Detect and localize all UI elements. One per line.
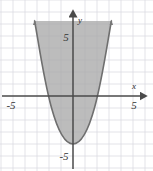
x-tick-label-positive-5: 5 — [131, 99, 137, 111]
y-axis-name-label: y — [77, 15, 82, 25]
graph-figure: x y -5 5 5 -5 — [0, 0, 153, 171]
x-tick-label-negative-5: -5 — [6, 99, 16, 111]
y-tick-label-positive-5: 5 — [63, 31, 69, 43]
coordinate-plane-svg: x y -5 5 5 -5 — [0, 0, 153, 171]
x-axis-name-label: x — [131, 81, 136, 91]
y-tick-label-negative-5: -5 — [59, 150, 69, 162]
